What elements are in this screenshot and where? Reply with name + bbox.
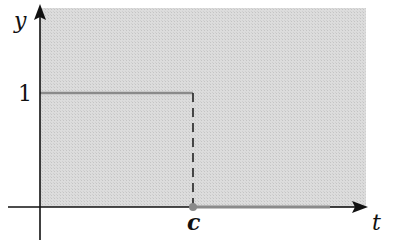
diagram-svg: y 1 c t [0, 0, 393, 241]
step-function-diagram: y 1 c t [0, 0, 393, 241]
y-tick-label-1: 1 [18, 81, 32, 106]
x-tick-label-c: c [187, 209, 201, 235]
y-axis-label: y [13, 8, 27, 33]
shaded-region [40, 8, 366, 207]
x-axis-label: t [372, 210, 381, 235]
